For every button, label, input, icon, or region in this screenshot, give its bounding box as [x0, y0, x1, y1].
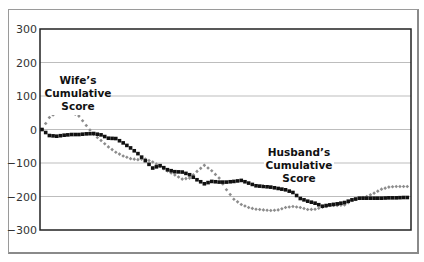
data-point-marker: [195, 170, 199, 174]
data-point-marker: [169, 169, 173, 173]
data-point-marker: [317, 206, 321, 210]
data-point-marker: [310, 208, 314, 212]
data-point-marker: [132, 157, 136, 161]
data-point-marker: [391, 196, 395, 200]
data-point-marker: [276, 187, 280, 191]
data-point-marker: [236, 179, 240, 183]
data-point-marker: [295, 194, 299, 198]
y-tick-label: 200: [16, 57, 37, 70]
data-point-marker: [44, 131, 48, 135]
annotation-line: Score: [61, 100, 94, 112]
data-point-marker: [391, 185, 395, 189]
data-point-marker: [306, 199, 310, 203]
data-point-marker: [354, 197, 358, 201]
annotation-husband-cumulative-score: Husband’s Cumulative Score: [264, 145, 334, 185]
data-point-marker: [372, 196, 376, 200]
data-point-marker: [228, 193, 232, 197]
data-point-marker: [184, 177, 188, 181]
data-point-marker: [88, 128, 92, 132]
data-point-marker: [177, 175, 181, 179]
data-point-marker: [173, 170, 177, 174]
data-point-marker: [254, 207, 258, 211]
data-point-marker: [251, 183, 255, 187]
data-point-marker: [210, 169, 214, 173]
data-point-marker: [365, 196, 369, 200]
data-point-marker: [66, 133, 70, 137]
data-point-marker: [188, 173, 192, 177]
data-point-marker: [103, 135, 107, 139]
data-point-marker: [125, 156, 129, 160]
data-point-marker: [402, 196, 406, 200]
data-point-marker: [232, 180, 236, 184]
data-point-marker: [383, 196, 387, 200]
data-point-marker: [383, 186, 387, 190]
y-tick-label: 0: [30, 124, 37, 137]
y-axis-tick-labels: 3002001000−100−200−300: [7, 23, 37, 237]
data-point-marker: [217, 176, 221, 180]
data-point-marker: [48, 134, 52, 138]
data-point-marker: [265, 208, 269, 212]
data-point-marker: [284, 206, 288, 210]
data-point-marker: [394, 185, 398, 189]
y-tick-label: −100: [7, 157, 37, 170]
data-point-marker: [402, 185, 406, 189]
data-point-marker: [262, 185, 266, 189]
data-point-marker: [96, 132, 100, 136]
data-point-marker: [247, 181, 251, 185]
data-point-marker: [129, 146, 133, 150]
data-point-marker: [103, 142, 107, 146]
data-point-marker: [206, 166, 210, 170]
data-point-marker: [195, 178, 199, 182]
data-point-marker: [210, 180, 214, 184]
data-point-marker: [121, 154, 125, 158]
data-point-marker: [299, 197, 303, 201]
data-point-marker: [132, 149, 136, 153]
data-point-marker: [273, 186, 277, 190]
data-point-marker: [361, 196, 365, 200]
data-point-marker: [372, 191, 376, 195]
data-point-marker: [55, 134, 59, 138]
data-point-marker: [332, 203, 336, 207]
data-point-marker: [121, 141, 125, 145]
data-point-marker: [77, 133, 81, 137]
data-point-marker: [199, 167, 203, 171]
data-point-marker: [191, 175, 195, 179]
data-point-marker: [144, 159, 148, 163]
data-point-marker: [287, 189, 291, 193]
data-point-marker: [276, 208, 280, 212]
data-point-marker: [118, 152, 122, 156]
line-chart: 3002001000−100−200−300 Wife’s Cumulative…: [0, 0, 424, 262]
y-tick-label: 100: [16, 90, 37, 103]
data-point-marker: [302, 198, 306, 202]
data-point-marker: [258, 184, 262, 188]
data-point-marker: [346, 199, 350, 203]
data-point-marker: [350, 198, 354, 202]
data-point-marker: [136, 152, 140, 156]
data-point-marker: [225, 180, 229, 184]
data-point-marker: [273, 208, 277, 212]
y-tick-label: −200: [7, 191, 37, 204]
data-point-marker: [155, 165, 159, 169]
data-point-marker: [254, 184, 258, 188]
data-point-marker: [162, 166, 166, 170]
annotation-line: Cumulative: [45, 87, 112, 99]
data-point-marker: [147, 163, 151, 167]
data-point-marker: [125, 144, 129, 148]
series-layer: [40, 111, 409, 213]
data-point-marker: [158, 164, 162, 168]
data-point-marker: [84, 124, 88, 128]
data-point-marker: [40, 128, 44, 132]
data-point-marker: [180, 177, 184, 181]
data-point-marker: [339, 201, 343, 205]
data-point-marker: [324, 204, 328, 208]
data-point-marker: [177, 170, 181, 174]
y-tick-label: 300: [16, 23, 37, 36]
data-point-marker: [48, 116, 52, 120]
data-point-marker: [239, 179, 243, 183]
data-point-marker: [59, 134, 63, 138]
data-point-marker: [280, 207, 284, 211]
annotation-line: Cumulative: [266, 159, 333, 171]
data-point-marker: [380, 196, 384, 200]
data-point-marker: [203, 182, 207, 186]
data-point-marker: [243, 204, 247, 208]
